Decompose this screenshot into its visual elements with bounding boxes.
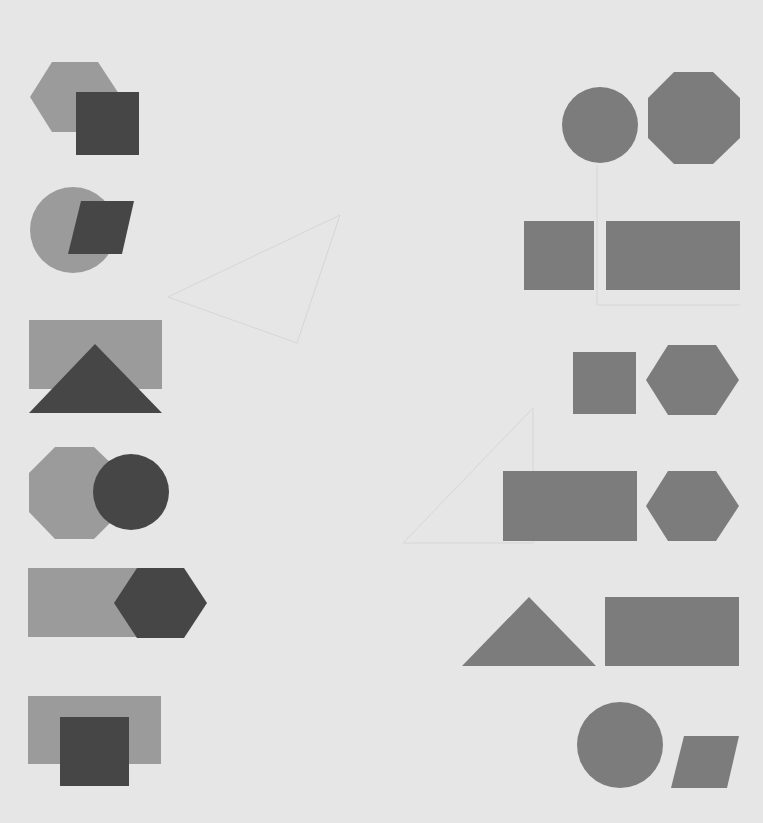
dark-square-shape — [60, 717, 129, 786]
mid-rectangle-shape — [503, 471, 637, 541]
shapes-canvas — [0, 0, 763, 823]
mid-circle-shape — [577, 702, 663, 788]
mid-square-shape — [524, 221, 594, 290]
dark-circle-shape — [93, 454, 169, 530]
left-pair-3 — [29, 320, 162, 413]
mid-square-shape — [573, 352, 636, 414]
mid-rectangle-shape — [606, 221, 740, 290]
right-pair-4 — [503, 471, 739, 541]
mid-circle-shape — [562, 87, 638, 163]
right-pair-2 — [524, 221, 740, 290]
left-pair-5 — [28, 568, 207, 638]
mid-rectangle-shape — [605, 597, 739, 666]
dark-square-shape — [76, 92, 139, 155]
left-pair-4 — [29, 447, 169, 539]
mid-octagon-shape — [648, 72, 740, 164]
